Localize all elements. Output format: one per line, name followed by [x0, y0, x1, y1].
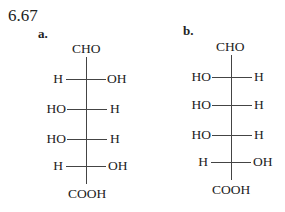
left-group-b-1: HO [192, 70, 212, 84]
bottom-group-a: COOH [68, 187, 106, 201]
bond-line-a-2 [67, 109, 107, 110]
bottom-group-b: COOH [212, 183, 250, 197]
bond-line-a-1 [66, 79, 106, 80]
right-group-a-4: OH [108, 159, 128, 173]
bond-line-b-2 [212, 105, 252, 106]
bond-line-b-3 [212, 135, 252, 136]
bond-line-a-4 [66, 166, 106, 167]
left-group-b-4: H [198, 155, 208, 169]
right-group-b-2: H [254, 98, 264, 112]
structure-label-a: a. [38, 26, 48, 42]
bond-line-b-1 [212, 77, 252, 78]
left-group-b-3: HO [192, 128, 212, 142]
top-group-b: CHO [216, 40, 245, 54]
left-group-a-2: HO [47, 102, 67, 116]
right-group-a-3: H [110, 132, 120, 146]
left-group-a-3: HO [47, 132, 67, 146]
right-group-b-1: H [254, 70, 264, 84]
backbone-line-a [86, 57, 87, 184]
bond-line-b-4 [211, 162, 251, 163]
left-group-a-1: H [53, 72, 63, 86]
problem-number: 6.67 [8, 6, 38, 26]
right-group-b-4: OH [253, 155, 273, 169]
left-group-b-2: HO [192, 98, 212, 112]
left-group-a-4: H [53, 159, 63, 173]
right-group-a-1: OH [107, 72, 127, 86]
bond-line-a-3 [67, 139, 107, 140]
top-group-a: CHO [72, 42, 101, 56]
right-group-b-3: H [254, 128, 264, 142]
structure-label-b: b. [183, 23, 193, 39]
right-group-a-2: H [110, 102, 120, 116]
